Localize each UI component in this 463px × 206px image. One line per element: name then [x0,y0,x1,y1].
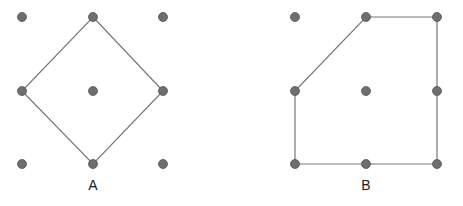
grid-dot-b-middle-right [433,87,442,96]
grid-dot-a-middle-left [18,87,27,96]
grid-dot-b-bottom-left [291,160,300,169]
grid-dot-a-top-middle [89,13,98,22]
panel-label-a: A [88,177,98,193]
grid-dot-b-bottom-middle [362,160,371,169]
grid-dot-b-bottom-right [433,160,442,169]
grid-dot-b-top-left [291,13,300,22]
grid-dot-a-bottom-middle [89,160,98,169]
grid-dot-a-top-right [159,13,168,22]
grid-dot-b-top-middle [362,13,371,22]
grid-dot-b-middle-left [291,87,300,96]
panel-label-b: B [361,177,370,193]
grid-dot-a-bottom-left [18,160,27,169]
grid-dot-b-top-right [433,13,442,22]
grid-dot-a-middle-right [159,87,168,96]
grid-dot-b-center [362,87,371,96]
grid-dot-a-center [89,87,98,96]
geometry-figure-canvas: AB [0,0,463,206]
canvas-background [0,0,463,206]
grid-dot-a-bottom-right [159,160,168,169]
grid-dot-a-top-left [18,13,27,22]
